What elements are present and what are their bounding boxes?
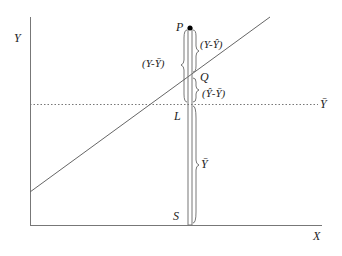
regression-deviation-diagram: Y X Ȳ P Q L S (Y-Ŷ) (Y-Ȳ) (Ŷ-Ȳ) Ȳ	[0, 0, 342, 256]
total-deviation-label: (Y-Ȳ)	[142, 57, 165, 70]
explained-label: (Ŷ-Ȳ)	[202, 87, 226, 100]
y-axis-label: Y	[14, 31, 22, 45]
deviation-bar	[188, 28, 192, 225]
total-deviation-brace	[181, 30, 187, 102]
point-l-label: L	[173, 109, 181, 123]
point-s-label: S	[173, 209, 179, 223]
point-p-dot	[188, 26, 193, 31]
mean-brace	[193, 106, 199, 223]
residual-label: (Y-Ŷ)	[200, 38, 223, 51]
mean-segment-label: Ȳ	[201, 157, 209, 171]
point-q-label: Q	[200, 70, 209, 84]
point-p-label: P	[175, 20, 184, 34]
x-axis-label: X	[312, 229, 321, 243]
mean-line-label: Ȳ	[320, 97, 328, 111]
residual-brace	[193, 30, 199, 72]
explained-brace	[193, 78, 199, 102]
